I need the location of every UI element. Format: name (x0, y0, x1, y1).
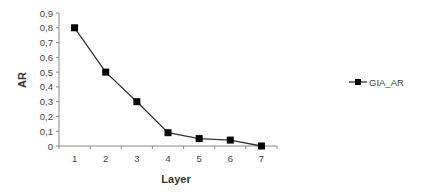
legend-marker-icon (355, 79, 361, 85)
x-axis: 1234567 (59, 146, 277, 164)
data-point-marker (196, 135, 203, 142)
x-tick-label: 2 (103, 153, 108, 164)
y-tick-label: 0,9 (40, 8, 53, 19)
x-tick-label: 6 (228, 153, 233, 164)
x-tick-label: 4 (165, 153, 170, 164)
chart: 00,10,20,30,40,50,60,70,80,9 1234567 AR … (0, 0, 422, 192)
x-tick-label: 7 (259, 153, 264, 164)
x-tick-label: 3 (134, 153, 139, 164)
y-tick-label: 0,8 (40, 22, 53, 33)
y-tick-label: 0 (48, 141, 53, 152)
data-point-marker (133, 98, 140, 105)
x-tick-label: 5 (196, 153, 201, 164)
data-point-marker (71, 24, 78, 31)
legend-label: GIA_AR (369, 77, 404, 88)
y-axis: 00,10,20,30,40,50,60,70,80,9 (40, 8, 59, 152)
y-tick-label: 0,4 (40, 81, 53, 92)
y-tick-label: 0,2 (40, 111, 53, 122)
y-tick-label: 0,7 (40, 37, 53, 48)
y-tick-label: 0,5 (40, 67, 53, 78)
series-gia-ar (71, 24, 265, 149)
y-axis-title: AR (16, 72, 28, 88)
data-point-marker (227, 137, 234, 144)
x-tick-label: 1 (72, 153, 77, 164)
y-tick-label: 0,6 (40, 52, 53, 63)
x-axis-title: Layer (161, 173, 191, 185)
data-point-marker (258, 143, 265, 150)
data-point-marker (165, 129, 172, 136)
legend: GIA_AR (349, 77, 404, 88)
y-tick-label: 0,3 (40, 96, 53, 107)
data-point-marker (102, 69, 109, 76)
y-tick-label: 0,1 (40, 126, 53, 137)
